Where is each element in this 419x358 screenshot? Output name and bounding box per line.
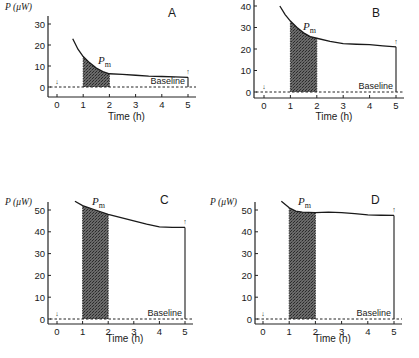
figure: 0102030012345Time (h)P (μW)ABaseline↓↑Pm… [0,0,419,358]
x-tick-label: 2 [107,99,112,110]
baseline-label: Baseline [150,76,185,86]
pm-label: Pm [297,195,312,210]
start-arrow-icon: ↓ [55,78,59,85]
panel-label: D [371,193,380,207]
x-tick-label: 0 [260,326,265,337]
end-arrow-icon: ↑ [392,206,396,213]
panel-label: C [160,193,169,207]
x-tick-label: 1 [287,326,292,337]
y-tick-label: 40 [34,226,45,237]
x-tick-label: 1 [81,99,86,110]
panel-label: A [168,6,176,20]
y-tick-label: 40 [241,226,252,237]
y-tick-label: 0 [247,314,252,325]
panel-label: B [372,6,380,20]
panel-c: 01020304050012345Time (h)P (μW)CBaseline… [4,193,193,344]
x-tick-label: 5 [393,100,398,111]
start-arrow-icon: ↓ [55,310,59,317]
end-arrow-icon: ↑ [186,68,190,75]
x-tick-label: 2 [314,100,319,111]
y-tick-label: 10 [34,292,45,303]
x-tick-label: 1 [288,100,293,111]
pm-shaded-region [83,206,109,319]
y-tick-label: 0 [40,82,45,93]
panel-d: 01020304050012345Time (h)P (μW)DBaseline… [209,193,402,344]
x-tick-label: 3 [341,100,346,111]
x-tick-label: 3 [133,99,138,110]
y-tick-label: 50 [241,205,252,216]
x-axis-label: Time (h) [314,333,351,344]
y-tick-label: 30 [34,248,45,259]
end-arrow-icon: ↑ [394,38,398,45]
x-tick-label: 5 [182,326,187,337]
y-tick-label: 30 [241,248,252,259]
start-arrow-icon: ↓ [261,310,265,317]
x-tick-label: 0 [54,99,59,110]
y-tick-label: 30 [34,19,45,30]
y-axis-label: P (μW) [209,197,237,208]
baseline-label: Baseline [358,81,393,91]
y-tick-label: 10 [241,292,252,303]
pm-shaded-region [289,208,315,319]
x-axis-label: Time (h) [316,111,353,122]
x-tick-label: 1 [80,326,85,337]
x-axis-label: Time (h) [107,333,144,344]
x-tick-label: 5 [391,326,396,337]
y-tick-label: 0 [40,314,45,325]
x-tick-label: 4 [157,326,162,337]
panel-a: 0102030012345Time (h)P (μW)ABaseline↓↑Pm [4,2,196,122]
x-tick-label: 4 [159,99,164,110]
pm-label: Pm [91,195,106,210]
y-tick-label: 20 [241,270,252,281]
y-tick-label: 10 [34,61,45,72]
y-tick-label: 50 [34,205,45,216]
start-arrow-icon: ↓ [262,83,266,90]
y-tick-label: 20 [240,44,251,55]
x-tick-label: 4 [365,326,370,337]
y-tick-label: 30 [240,22,251,33]
x-axis-label: Time (h) [108,111,145,122]
x-tick-label: 0 [261,100,266,111]
baseline-label: Baseline [356,308,391,318]
y-tick-label: 20 [34,40,45,51]
y-tick-label: 10 [240,65,251,76]
x-tick-label: 5 [185,99,190,110]
x-tick-label: 4 [367,100,372,111]
y-tick-label: 20 [34,270,45,281]
pm-label: Pm [97,54,112,69]
y-axis-label: P (μW) [4,197,32,208]
x-tick-label: 0 [54,326,59,337]
y-tick-label: 0 [246,87,251,98]
panel-b: 010203040012345Time (h)BBaseline↓↑Pm [240,0,404,122]
y-axis-label: P (μW) [4,2,32,13]
y-tick-label: 40 [240,1,251,12]
end-arrow-icon: ↑ [183,218,187,225]
baseline-label: Baseline [147,308,182,318]
